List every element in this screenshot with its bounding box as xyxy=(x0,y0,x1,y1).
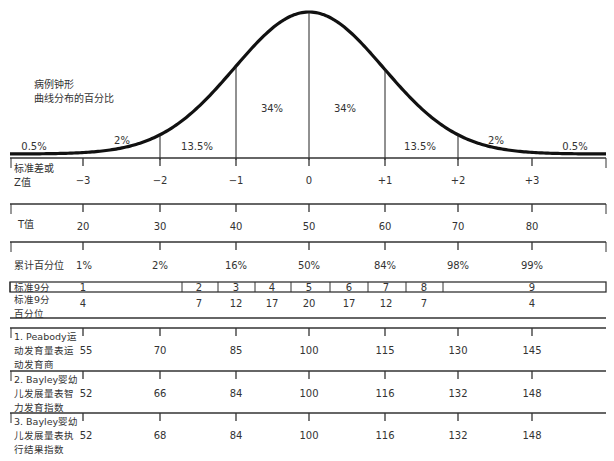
chart-canvas: 病例钟形曲线分布的百分比0.5%2%13.5%34%34%13.5%2%0.5%… xyxy=(0,0,614,461)
stanine-value: 5 xyxy=(306,282,312,293)
cumulative-percent: 50% xyxy=(298,260,320,271)
segment-percent-label: 0.5% xyxy=(562,141,587,152)
stanine-value: 9 xyxy=(529,282,535,293)
scale-value-bayley_exec: 148 xyxy=(522,430,541,441)
t-value: 40 xyxy=(230,221,243,232)
z-value: −3 xyxy=(76,175,91,186)
t-value: 70 xyxy=(452,221,465,232)
scale-label-peabody: 动发育商 xyxy=(14,359,54,370)
segment-percent-label: 34% xyxy=(261,103,283,114)
segment-percent-label: 0.5% xyxy=(21,141,46,152)
stanine-value: 8 xyxy=(421,282,427,293)
stanine-value: 6 xyxy=(346,282,352,293)
segment-percent-label: 2% xyxy=(488,135,504,146)
stanine-value: 3 xyxy=(233,282,239,293)
scale-value-bayley_mdi: 100 xyxy=(299,388,318,399)
cumulative-percent: 84% xyxy=(374,260,396,271)
scale-value-peabody: 85 xyxy=(230,345,243,356)
scale-value-bayley_exec: 84 xyxy=(230,430,243,441)
stanine-value: 2 xyxy=(196,282,202,293)
t-value: 30 xyxy=(154,221,167,232)
scale-label-bayley_mdi: 2. Bayley婴幼 xyxy=(14,374,78,385)
scale-value-bayley_exec: 116 xyxy=(375,430,394,441)
scale-value-peabody: 100 xyxy=(299,345,318,356)
stanine-percent-label: 标准9分 xyxy=(14,294,50,305)
scale-value-bayley_mdi: 116 xyxy=(375,388,394,399)
scale-label-bayley_exec: 行结果指数 xyxy=(14,444,64,455)
t-value: 20 xyxy=(77,221,90,232)
scale-label-cumulative: 累计百分位 xyxy=(14,259,64,271)
cumulative-percent: 16% xyxy=(225,260,247,271)
stanine-percent-value: 17 xyxy=(266,298,279,309)
stanine-percent-value: 4 xyxy=(80,298,86,309)
z-value: +1 xyxy=(378,175,393,186)
scale-label-bayley_exec: 儿发展量表执 xyxy=(14,430,74,441)
scale-label-peabody: 动发育量表运 xyxy=(14,345,74,356)
scale-value-peabody: 70 xyxy=(154,345,167,356)
stanine-value: 7 xyxy=(383,282,389,293)
cumulative-percent: 1% xyxy=(76,260,92,271)
bell-curve xyxy=(10,12,606,154)
scale-value-bayley_mdi: 84 xyxy=(230,388,243,399)
stanine-percent-value: 4 xyxy=(529,298,535,309)
scale-label-peabody: 1. Peabody运 xyxy=(14,331,77,342)
z-value: +3 xyxy=(525,175,540,186)
chart-title: 曲线分布的百分比 xyxy=(34,92,114,104)
scale-value-bayley_exec: 132 xyxy=(448,430,467,441)
stanine-row-label: 标准9分 xyxy=(14,282,50,293)
z-value: +2 xyxy=(451,175,466,186)
cumulative-percent: 2% xyxy=(152,260,168,271)
scale-value-bayley_mdi: 52 xyxy=(80,388,93,399)
scale-label-z: Z值 xyxy=(14,176,31,188)
chart-title: 病例钟形 xyxy=(34,78,74,90)
stanine-percent-value: 17 xyxy=(343,298,356,309)
z-value: −1 xyxy=(229,175,244,186)
z-value: −2 xyxy=(153,175,168,186)
t-value: 50 xyxy=(303,221,316,232)
t-value: 80 xyxy=(526,221,539,232)
scale-value-bayley_mdi: 132 xyxy=(448,388,467,399)
stanine-percent-value: 12 xyxy=(230,298,243,309)
segment-percent-label: 2% xyxy=(114,135,130,146)
stanine-value: 1 xyxy=(80,282,86,293)
stanine-percent-value: 12 xyxy=(380,298,393,309)
normal-distribution-chart: 病例钟形曲线分布的百分比0.5%2%13.5%34%34%13.5%2%0.5%… xyxy=(0,0,614,461)
scale-value-bayley_exec: 100 xyxy=(299,430,318,441)
segment-percent-label: 13.5% xyxy=(404,141,436,152)
stanine-percent-value: 7 xyxy=(421,298,427,309)
stanine-percent-value: 7 xyxy=(196,298,202,309)
scale-label-bayley_exec: 3. Bayley婴幼 xyxy=(14,416,78,427)
stanine-percent-value: 20 xyxy=(303,298,316,309)
scale-value-peabody: 55 xyxy=(80,345,93,356)
scale-label-t: T值 xyxy=(17,218,34,230)
cumulative-percent: 99% xyxy=(521,260,543,271)
scale-value-bayley_exec: 52 xyxy=(80,430,93,441)
scale-value-bayley_exec: 68 xyxy=(154,430,167,441)
stanine-value: 4 xyxy=(269,282,275,293)
z-value: 0 xyxy=(306,175,312,186)
scale-value-peabody: 115 xyxy=(375,345,394,356)
t-value: 60 xyxy=(379,221,392,232)
scale-value-bayley_mdi: 148 xyxy=(522,388,541,399)
segment-percent-label: 34% xyxy=(334,103,356,114)
scale-value-peabody: 130 xyxy=(448,345,467,356)
scale-label-bayley_mdi: 力发育指数 xyxy=(14,402,64,413)
cumulative-percent: 98% xyxy=(447,260,469,271)
scale-value-bayley_mdi: 66 xyxy=(154,388,167,399)
scale-value-peabody: 145 xyxy=(522,345,541,356)
scale-label-z: 标准差或 xyxy=(14,162,54,174)
segment-percent-label: 13.5% xyxy=(181,141,213,152)
scale-label-bayley_mdi: 儿发展量表智 xyxy=(14,388,74,399)
